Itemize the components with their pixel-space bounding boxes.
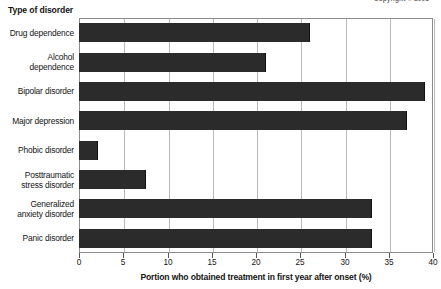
gridline-40	[434, 19, 435, 252]
x-tick-label: 30	[330, 258, 360, 267]
bar	[79, 170, 146, 189]
bar	[79, 111, 407, 130]
x-axis-title: Portion who obtained treatment in first …	[79, 272, 433, 282]
bar-chart: Copyright © 2001 Type of disorder Drug d…	[0, 0, 441, 289]
category-axis-title: Type of disorder	[8, 5, 74, 15]
bar	[79, 23, 310, 42]
category-label: Posttraumaticstress disorder	[0, 170, 74, 190]
x-tick-label: 25	[285, 258, 315, 267]
x-tick-label: 20	[241, 258, 271, 267]
category-label: Phobic disorder	[0, 145, 74, 155]
bar	[79, 141, 98, 160]
category-label: Drug dependence	[0, 28, 74, 38]
x-tick-label: 0	[64, 258, 94, 267]
x-tick-label: 10	[153, 258, 183, 267]
bar	[79, 229, 372, 248]
bar	[79, 53, 266, 72]
bar	[79, 199, 372, 218]
x-tick-label: 35	[374, 258, 404, 267]
gridline-35	[390, 19, 391, 252]
category-label: Major depression	[0, 116, 74, 126]
x-tick-label: 15	[197, 258, 227, 267]
category-label: Alcoholdependence	[0, 52, 74, 72]
x-tick-label: 40	[418, 258, 441, 267]
category-label: Bipolar disorder	[0, 86, 74, 96]
bar	[79, 82, 425, 101]
category-label: Panic disorder	[0, 233, 74, 243]
x-tick-label: 5	[108, 258, 138, 267]
category-label: Generalizedanxiety disorder	[0, 199, 74, 219]
credit-line: Copyright © 2001	[374, 0, 429, 2]
